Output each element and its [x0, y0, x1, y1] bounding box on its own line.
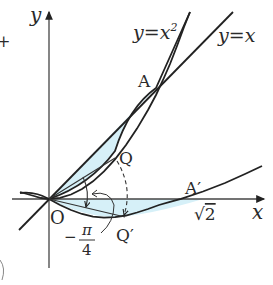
- margin-mark-top: +: [0, 32, 10, 51]
- margin-mark-bottom: [0, 260, 4, 280]
- shaded-region-rotated: [49, 199, 203, 217]
- angle-numerator: π: [81, 221, 93, 239]
- y-axis-label: y: [29, 3, 42, 27]
- angle-minus-sign: −: [64, 228, 77, 246]
- point-Q-label: Q: [119, 148, 133, 168]
- sqrt2-label: √2: [194, 204, 216, 224]
- line-label: y=x: [217, 24, 256, 46]
- segment-OQ: [49, 158, 115, 199]
- point-A-label: A: [137, 71, 151, 91]
- origin-label: O: [50, 207, 65, 228]
- diagram-canvas: y x O y=x2 y=x A Q Q′ A′ √2 − π 4 +: [0, 0, 273, 285]
- point-Qprime-label: Q′: [116, 225, 134, 245]
- point-Aprime-label: A′: [184, 178, 201, 198]
- x-axis-label: x: [252, 200, 263, 224]
- parabola-label: y=x2: [132, 21, 177, 43]
- angle-denominator: 4: [82, 241, 92, 259]
